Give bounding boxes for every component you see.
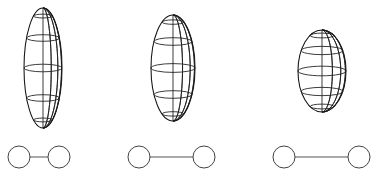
dumbbell-node-left (8, 146, 30, 168)
dumbbell-node-right (348, 146, 370, 168)
spheroid-meridian (173, 15, 190, 121)
prolate-spheroid-compact (298, 30, 346, 112)
spheroid-meridian (173, 15, 183, 121)
spheroid-meridian (322, 30, 341, 112)
dumbbell-node-left (128, 146, 150, 168)
spheroid-meridian (173, 15, 183, 121)
spheroid-meridian (43, 8, 51, 128)
figure-root (0, 0, 381, 176)
two-site-dumbbell-long (273, 146, 370, 168)
panel-3 (273, 30, 370, 168)
prolate-spheroid-intermediate (151, 15, 195, 121)
spheroid-meridian (43, 8, 58, 128)
spheroid-meridian (322, 30, 345, 112)
spheroid-meridian (322, 30, 332, 112)
spheroid-meridian (43, 8, 62, 128)
panel-2 (128, 15, 215, 168)
spheroid-meridian (322, 30, 332, 112)
spheroid-dumbbell-figure (0, 0, 381, 176)
spheroid-meridian (173, 15, 190, 121)
two-site-dumbbell-medium (128, 146, 215, 168)
prolate-spheroid-elongated (24, 8, 62, 128)
spheroid-meridian (43, 8, 58, 128)
two-site-dumbbell-short (8, 146, 70, 168)
dumbbell-node-right (48, 146, 70, 168)
dumbbell-node-left (273, 146, 295, 168)
panel-1 (8, 8, 70, 168)
panels-layer (8, 8, 370, 168)
spheroid-meridian (173, 15, 194, 121)
spheroid-meridian (43, 8, 51, 128)
spheroid-meridian (322, 30, 341, 112)
dumbbell-node-right (193, 146, 215, 168)
spheroid-meridian (43, 8, 62, 128)
spheroid-meridian (173, 15, 194, 121)
spheroid-meridian (322, 30, 345, 112)
